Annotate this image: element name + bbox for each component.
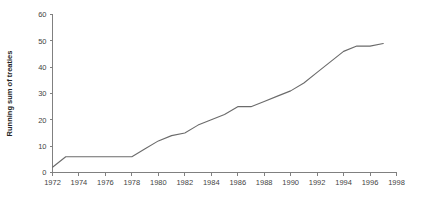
chart-container: 0102030405060 19721974197619781980198219…	[0, 0, 421, 206]
y-tick-label: 20	[38, 116, 46, 125]
y-tick-label: 0	[42, 168, 46, 177]
x-tick-label: 1974	[71, 178, 88, 187]
x-tick-label: 1992	[309, 178, 326, 187]
y-tick-label: 50	[38, 37, 46, 46]
x-tick-label: 1976	[97, 178, 114, 187]
y-tick-label: 10	[38, 142, 46, 151]
x-tick-label: 1994	[335, 178, 352, 187]
data-series-group	[53, 43, 384, 167]
x-tick-label: 1990	[282, 178, 299, 187]
x-axis: 1972197419761978198019821984198619881990…	[44, 173, 405, 188]
x-tick-label: 1972	[44, 178, 61, 187]
line-chart: 0102030405060 19721974197619781980198219…	[0, 0, 421, 206]
y-axis-title: Running sum of treaties	[5, 51, 14, 137]
data-line	[53, 43, 384, 167]
x-tick-label: 1996	[362, 178, 379, 187]
y-tick-label: 40	[38, 63, 46, 72]
x-tick-label: 1980	[150, 178, 167, 187]
x-tick-label: 1988	[256, 178, 273, 187]
y-tick-label: 60	[38, 10, 46, 19]
x-tick-label: 1986	[229, 178, 246, 187]
y-axis: 0102030405060	[38, 10, 52, 177]
x-tick-label: 1982	[176, 178, 193, 187]
y-tick-label: 30	[38, 89, 46, 98]
x-tick-label: 1998	[388, 178, 405, 187]
x-tick-label: 1984	[203, 178, 220, 187]
x-tick-label: 1978	[124, 178, 141, 187]
